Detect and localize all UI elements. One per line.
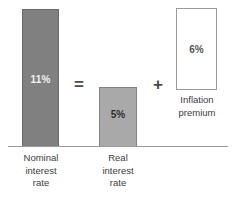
plus-operator: + xyxy=(147,76,169,93)
equals-operator: = xyxy=(68,76,90,93)
bar-real-value-label: 5% xyxy=(99,109,137,120)
interest-rate-diagram: 11% = 5% + 6% Inflation premium Nominal … xyxy=(0,0,237,204)
caption-nominal-line-2: interest xyxy=(5,165,77,178)
caption-real-interest-rate: Real interest rate xyxy=(82,152,154,190)
caption-inflation-line-1: Inflation xyxy=(160,94,234,107)
baseline-axis xyxy=(8,146,228,147)
caption-nominal-line-3: rate xyxy=(5,177,77,190)
caption-real-line-2: interest xyxy=(82,165,154,178)
caption-inflation-line-2: premium xyxy=(160,107,234,120)
caption-inflation-premium: Inflation premium xyxy=(160,94,234,119)
caption-nominal-line-1: Nominal xyxy=(5,152,77,165)
caption-real-line-1: Real xyxy=(82,152,154,165)
box-inflation-value-label: 6% xyxy=(176,44,217,55)
bar-nominal-value-label: 11% xyxy=(22,74,59,85)
caption-nominal-interest-rate: Nominal interest rate xyxy=(5,152,77,190)
caption-real-line-3: rate xyxy=(82,177,154,190)
